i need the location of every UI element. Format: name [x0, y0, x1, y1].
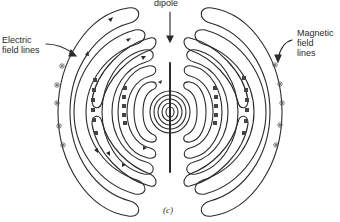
- field-lines-drawing: [0, 0, 340, 222]
- magnetic-label-line3: lines: [297, 48, 340, 58]
- direction-arrows: [85, 17, 162, 167]
- electric-label-line1: Electric: [2, 35, 52, 45]
- arrowhead-icon: [167, 36, 173, 42]
- dipole-label: dipole: [154, 0, 178, 8]
- left-field-loops: [58, 8, 156, 216]
- magnetic-label-line2: field: [297, 38, 340, 48]
- arrowhead-icon: [275, 55, 281, 62]
- magnetic-label-line1: Magnetic: [297, 28, 340, 38]
- electric-label-line2: field lines: [2, 45, 52, 55]
- figure-caption: (c): [163, 205, 173, 215]
- magnetic-field-label: Magnetic field lines: [297, 28, 340, 58]
- dipole-radiation-diagram: dipole Electric field lines Magnetic fie…: [0, 0, 340, 222]
- electric-field-label: Electric field lines: [2, 35, 52, 55]
- right-field-loops: [184, 8, 282, 216]
